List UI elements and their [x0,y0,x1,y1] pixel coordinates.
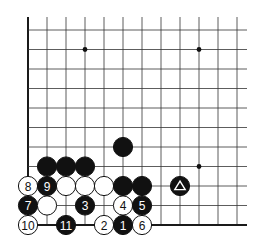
stone-icon [170,176,189,195]
move-number-label: 1 [120,219,127,233]
white-stone-move-8: 8 [18,176,37,195]
move-number-label: 9 [44,180,51,194]
move-number-label: 3 [82,199,89,213]
move-number-label: 5 [139,199,146,213]
stone-icon [56,176,75,195]
stone-icon [37,157,56,176]
stone-icon [37,196,56,215]
black-stone [113,176,132,195]
star-point-icon [197,47,202,52]
black-stone [132,176,151,195]
move-number-label: 4 [120,199,127,213]
black-stone [56,157,75,176]
black-stone [75,157,94,176]
move-number-label: 10 [21,219,35,233]
move-number-label: 11 [60,219,73,233]
stone-icon [113,176,132,195]
go-board-diagram: 8973451011216 [0,0,265,247]
black-stone-move-11: 11 [56,215,75,234]
move-number-label: 7 [25,199,32,213]
stone-icon [94,176,113,195]
star-point-icon [83,47,88,52]
white-stone-move-2: 2 [94,215,113,234]
black-stone-move-1: 1 [113,215,132,234]
black-stone [37,157,56,176]
stone-icon [56,157,75,176]
black-stone-move-7: 7 [18,196,37,215]
black-stone-move-5: 5 [132,196,151,215]
stone-icon [75,176,94,195]
black-stone [113,137,132,156]
stone-icon [132,176,151,195]
stone-icon [75,157,94,176]
white-stone [75,176,94,195]
black-stone-move-3: 3 [75,196,94,215]
white-stone [37,196,56,215]
star-point-icon [197,164,202,169]
move-number-label: 8 [25,180,32,194]
black-stone-move-9: 9 [37,176,56,195]
move-number-label: 6 [139,219,146,233]
white-stone-move-10: 10 [18,215,37,234]
white-stone [56,176,75,195]
stone-icon [113,137,132,156]
black-stone [170,176,189,195]
move-number-label: 2 [101,219,108,233]
white-stone [94,176,113,195]
white-stone-move-6: 6 [132,215,151,234]
white-stone-move-4: 4 [113,196,132,215]
